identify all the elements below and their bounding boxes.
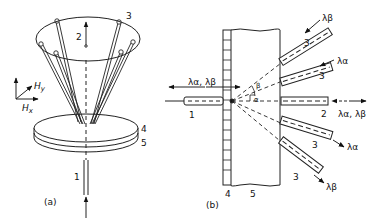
label-b-fiber-3d: 3 [293, 172, 299, 182]
label-b-fiber-3c: 3 [312, 140, 318, 150]
panel-b [165, 20, 366, 186]
label-wavelength-lower: λα [347, 142, 358, 152]
label-fiber-2: 2 [76, 32, 82, 42]
label-fiber-3: 3 [126, 11, 132, 21]
label-b-fiber-3b: 3 [319, 71, 325, 81]
fiber-3-lower [280, 116, 333, 139]
label-layer-4: 4 [141, 124, 147, 134]
label-fiber-1: 1 [74, 172, 80, 182]
label-grating-4: 4 [225, 189, 231, 199]
label-angle-beta: β [256, 82, 260, 90]
label-wavelength-upper: λα [337, 56, 348, 66]
caption-b: (b) [206, 200, 219, 210]
label-wavelength-top: λβ [322, 13, 333, 23]
label-b-fiber-2: 2 [321, 109, 327, 119]
label-substrate-5: 5 [250, 189, 256, 199]
label-hy: Hy [34, 81, 46, 93]
cone-ellipse [36, 17, 140, 61]
label-wavelength-input: λα, λβ [188, 77, 216, 87]
input-fiber-b1 [165, 97, 223, 105]
diagram-canvas: 3 2 4 5 1 (a) Hy Hx [0, 0, 374, 223]
caption-a: (a) [44, 197, 57, 207]
label-hx: Hx [22, 103, 34, 115]
fiber-3-upper [280, 63, 333, 86]
label-wavelength-output: λα, λβ [338, 109, 366, 119]
grating-4 [223, 30, 231, 185]
label-wavelength-bottom: λβ [326, 182, 337, 192]
label-b-fiber-1: 1 [189, 110, 195, 120]
output-fiber-b2 [281, 97, 328, 105]
label-angle-alpha: α [254, 96, 259, 104]
panel-a [16, 17, 140, 218]
fiber-bundle [39, 19, 135, 124]
substrate-5 [231, 29, 280, 186]
label-layer-5: 5 [141, 138, 147, 148]
label-b-fiber-3a: 3 [304, 38, 310, 48]
